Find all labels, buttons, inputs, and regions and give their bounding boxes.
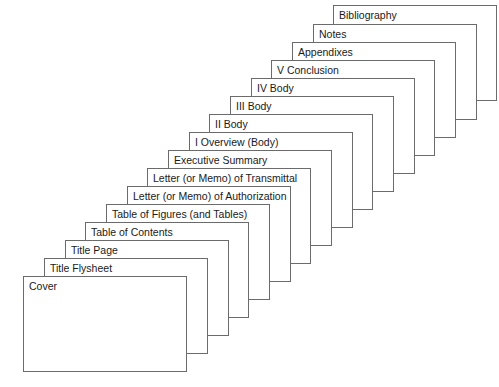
report-section-card-label: Title Flysheet xyxy=(50,262,112,275)
report-section-card-label: Title Page xyxy=(71,244,118,257)
report-sections-stack-diagram: BibliographyNotesAppendixesV ConclusionI… xyxy=(0,0,499,387)
report-section-card-label: II Body xyxy=(215,118,248,131)
report-section-card-label: Notes xyxy=(319,28,346,41)
report-section-card-label: III Body xyxy=(236,100,272,113)
report-section-card-label: Table of Contents xyxy=(91,226,173,239)
report-section-card-label: Table of Figures (and Tables) xyxy=(112,208,247,221)
report-section-card-label: IV Body xyxy=(257,82,294,95)
report-section-card-label: I Overview (Body) xyxy=(195,136,278,149)
report-section-card-label: Appendixes xyxy=(298,46,353,59)
report-section-card-label: Letter (or Memo) of Authorization xyxy=(133,190,287,203)
report-section-card[interactable]: Cover xyxy=(23,276,187,372)
report-section-card-label: Executive Summary xyxy=(174,154,267,167)
report-section-card-label: V Conclusion xyxy=(277,64,339,77)
report-section-card-label: Letter (or Memo) of Transmittal xyxy=(153,172,297,185)
report-section-card-label: Cover xyxy=(29,280,57,293)
report-section-card-label: Bibliography xyxy=(339,9,397,22)
